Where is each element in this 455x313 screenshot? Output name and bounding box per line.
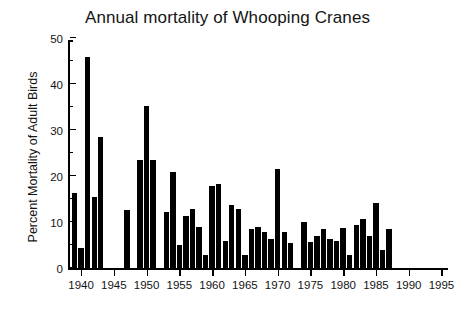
x-tick — [179, 270, 180, 276]
y-tick-label: 10 — [50, 218, 63, 230]
bar — [373, 203, 378, 269]
x-tick-label: 1955 — [167, 280, 193, 292]
bar — [236, 209, 241, 269]
x-tick-label: 1960 — [199, 280, 225, 292]
x-tick — [376, 270, 377, 276]
bar — [190, 209, 195, 269]
x-tick-label: 1980 — [330, 280, 356, 292]
y-axis-line — [68, 40, 70, 270]
bar — [177, 245, 182, 268]
plot-area: 01020304050 1940194519501955196019651970… — [68, 40, 448, 270]
x-tick — [441, 270, 442, 276]
bar — [242, 255, 247, 269]
y-tick-minor — [70, 198, 74, 199]
x-tick-label: 1965 — [232, 280, 258, 292]
x-tick — [310, 270, 311, 276]
y-tick-minor — [70, 60, 74, 61]
y-axis-label: Percent Mortality of Adult Birds — [26, 42, 40, 272]
y-tick-label: 40 — [50, 80, 63, 92]
bar — [308, 242, 313, 269]
bar — [282, 232, 287, 269]
bar — [288, 243, 293, 268]
bar — [255, 227, 260, 268]
y-axis-top-cap — [68, 40, 73, 42]
bar — [72, 193, 77, 269]
bar — [196, 227, 201, 268]
bar — [170, 172, 175, 269]
x-tick — [114, 270, 115, 276]
bar — [340, 228, 345, 268]
bar — [327, 239, 332, 269]
bar — [347, 255, 352, 269]
bar — [275, 169, 280, 269]
x-tick-label: 1985 — [363, 280, 389, 292]
bar — [314, 236, 319, 268]
bar — [150, 160, 155, 268]
y-tick-major — [70, 221, 76, 222]
bar — [223, 241, 228, 269]
bar — [386, 229, 391, 268]
y-tick-label: 30 — [50, 126, 63, 138]
bar — [124, 210, 129, 269]
bar — [268, 239, 273, 269]
x-tick — [343, 270, 344, 276]
x-tick — [212, 270, 213, 276]
bar — [144, 106, 149, 268]
bar — [203, 255, 208, 269]
y-tick-label: 0 — [57, 264, 63, 276]
y-tick-major — [70, 37, 76, 38]
y-tick-major — [70, 175, 76, 176]
bar — [78, 248, 83, 269]
x-axis-line — [68, 268, 448, 270]
x-tick — [409, 270, 410, 276]
y-tick-minor — [70, 244, 74, 245]
x-tick-label: 1950 — [134, 280, 160, 292]
bar — [92, 197, 97, 268]
x-tick-label: 1990 — [396, 280, 422, 292]
chart-figure: Annual mortality of Whooping Cranes Perc… — [0, 0, 455, 313]
bar — [216, 184, 221, 268]
y-tick-minor — [70, 106, 74, 107]
x-tick — [278, 270, 279, 276]
x-tick-label: 1995 — [429, 280, 455, 292]
y-tick-major — [70, 267, 76, 268]
bar — [367, 236, 372, 268]
bar — [321, 229, 326, 268]
bar — [334, 241, 339, 269]
bar — [164, 212, 169, 269]
y-tick-minor — [70, 152, 74, 153]
y-tick-major — [70, 129, 76, 130]
x-tick — [147, 270, 148, 276]
x-tick-label: 1970 — [265, 280, 291, 292]
x-tick-label: 1940 — [68, 280, 94, 292]
bar — [380, 250, 385, 268]
y-tick-major — [70, 83, 76, 84]
bar — [137, 160, 142, 268]
bar — [183, 216, 188, 269]
bar — [249, 229, 254, 268]
x-tick-label: 1945 — [101, 280, 127, 292]
bar — [301, 222, 306, 268]
bar — [98, 137, 103, 268]
y-tick-label: 20 — [50, 172, 63, 184]
chart-title: Annual mortality of Whooping Cranes — [0, 8, 455, 28]
y-tick-label: 50 — [50, 34, 63, 46]
bar — [229, 205, 234, 268]
bar — [85, 57, 90, 269]
bar — [360, 219, 365, 269]
x-tick — [81, 270, 82, 276]
x-tick-label: 1975 — [298, 280, 324, 292]
bar — [354, 225, 359, 269]
x-tick — [245, 270, 246, 276]
bar — [209, 186, 214, 269]
bar — [262, 232, 267, 269]
